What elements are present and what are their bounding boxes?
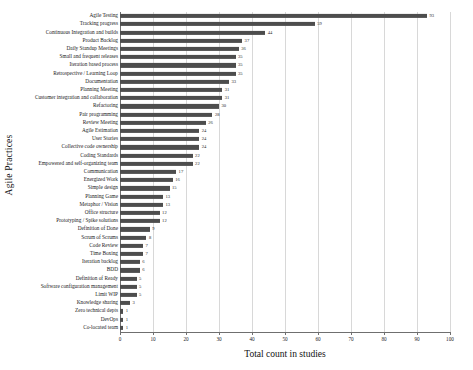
bar-row: Definition of Done9 <box>0 225 473 233</box>
bar-value-label: 5 <box>139 285 141 290</box>
bar-value-label: 24 <box>202 137 207 142</box>
bar-value-label: 93 <box>429 14 434 19</box>
bar-category-label: Agile Estimation <box>82 128 118 133</box>
bar-row: Iteration based process35 <box>0 61 473 69</box>
bar-value-label: 6 <box>142 260 144 265</box>
bar-value-label: 59 <box>317 22 322 27</box>
bar-row: Iteration backlog6 <box>0 258 473 266</box>
tick-label: 100 <box>446 336 454 342</box>
bar <box>120 104 219 108</box>
tick-mark <box>384 332 385 335</box>
bar-row: Empowered and self-organizing team22 <box>0 160 473 168</box>
bar-category-label: Product Backlog <box>83 38 118 43</box>
bar-row: Limit WIP5 <box>0 291 473 299</box>
bar-value-label: 1 <box>126 309 128 314</box>
bar-value-label: 16 <box>175 178 180 183</box>
tick-mark <box>318 332 319 335</box>
bar-row: Pair programming28 <box>0 110 473 118</box>
bar-value-label: 44 <box>268 30 273 35</box>
bar <box>120 88 222 92</box>
bar <box>120 22 315 26</box>
bar-value-label: 35 <box>238 63 243 68</box>
bar-value-label: 12 <box>162 219 167 224</box>
bar-category-label: Definition of Done <box>78 227 118 232</box>
bar-category-label: Knowledge sharing <box>77 301 118 306</box>
bar-category-label: Refactoring <box>93 104 118 109</box>
bar-category-label: Communication <box>84 169 118 174</box>
tick-label: 20 <box>183 336 188 342</box>
bar-category-label: Scrum of Scrums <box>81 235 118 240</box>
bar-category-label: Iteration based process <box>69 63 118 68</box>
bar <box>120 80 229 84</box>
bar <box>120 244 143 248</box>
bar-row: Collective code ownership24 <box>0 143 473 151</box>
bar-row: Small and frequent releases35 <box>0 53 473 61</box>
bar-rows: Agile Testing93Tracking progress59Contin… <box>0 12 473 332</box>
tick-label: 30 <box>216 336 221 342</box>
bar-category-label: DevOps <box>101 317 118 322</box>
bar-row: Zero technical depts1 <box>0 307 473 315</box>
bar-category-label: Prototyping / Spike solutions <box>56 219 118 224</box>
bar-row: Metaphor / Vision13 <box>0 201 473 209</box>
bar <box>120 39 242 43</box>
bar-value-label: 5 <box>139 293 141 298</box>
tick-mark <box>417 332 418 335</box>
tick-mark <box>252 332 253 335</box>
bar-row: Knowledge sharing3 <box>0 299 473 307</box>
tick-label: 40 <box>249 336 254 342</box>
bar-category-label: BDD <box>107 268 118 273</box>
bar-row: Refactoring30 <box>0 102 473 110</box>
tick-mark <box>285 332 286 335</box>
bar-row: Daily Standup Meetings36 <box>0 45 473 53</box>
bar-value-label: 33 <box>231 79 236 84</box>
bar-value-label: 1 <box>126 326 128 331</box>
bar <box>120 236 146 240</box>
bar <box>120 178 173 182</box>
bar <box>120 260 140 264</box>
bar-category-label: Customer integration and collaboration <box>35 95 118 100</box>
bar <box>120 153 193 157</box>
bar-category-label: User Stories <box>92 137 118 142</box>
bar-category-label: Definition of Ready <box>76 276 118 281</box>
tick-label: 90 <box>414 336 419 342</box>
bar <box>120 268 140 272</box>
bar <box>120 293 137 297</box>
bar-value-label: 28 <box>215 112 220 117</box>
bar-row: Co-located team1 <box>0 324 473 332</box>
bar-category-label: Empowered and self-organizing team <box>39 161 118 166</box>
bar-category-label: Agile Testing <box>89 13 118 18</box>
bar-category-label: Iteration backlog <box>82 260 118 265</box>
bar-category-label: Small and frequent releases <box>60 54 118 59</box>
bar <box>120 129 199 133</box>
bar-category-label: Retrospective / Learning Loop <box>53 71 118 76</box>
bar <box>120 63 236 67</box>
bar <box>120 145 199 149</box>
bar-value-label: 9 <box>152 227 154 232</box>
bar-category-label: Documentation <box>85 79 118 84</box>
bar-value-label: 5 <box>139 276 141 281</box>
x-axis-title: Total count in studies <box>120 349 450 359</box>
bar-value-label: 1 <box>126 317 128 322</box>
bar-row: Continuous Integration and builds44 <box>0 28 473 36</box>
bar-value-label: 13 <box>165 203 170 208</box>
bar-value-label: 36 <box>241 47 246 52</box>
bar-row: Agile Estimation24 <box>0 127 473 135</box>
bar-row: Simple design15 <box>0 184 473 192</box>
bar-category-label: Collective code ownership <box>62 145 118 150</box>
bar-category-label: Software configuration management <box>41 284 118 289</box>
bar <box>120 195 163 199</box>
tick-mark <box>219 332 220 335</box>
bar-value-label: 24 <box>202 129 207 134</box>
bar-category-label: Continuous Integration and builds <box>46 30 118 35</box>
bar-category-label: Pair programming <box>79 112 118 117</box>
bar-row: Prototyping / Spike solutions12 <box>0 217 473 225</box>
bar-value-label: 31 <box>225 88 230 93</box>
bar <box>120 55 236 59</box>
bar <box>120 285 137 289</box>
bar-category-label: Code Review <box>89 243 118 248</box>
bar-row: BDD6 <box>0 266 473 274</box>
tick-label: 70 <box>348 336 353 342</box>
bar <box>120 219 160 223</box>
bar <box>120 326 123 330</box>
bar-row: Scrum of Scrums8 <box>0 234 473 242</box>
